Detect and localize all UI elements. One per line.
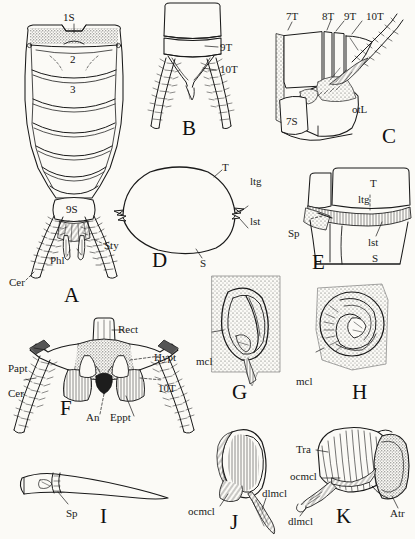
label-e-t: T — [370, 178, 377, 189]
label-c-8t: 8T — [322, 11, 334, 22]
label-f-rect: Rect — [118, 324, 138, 335]
label-j-dlmcl: dlmcl — [262, 488, 287, 499]
figure-letter-e: E — [312, 252, 325, 273]
label-e-sp: Sp — [288, 228, 300, 239]
label-a-phl: Phl — [50, 255, 65, 266]
label-c-7s: 7S — [286, 116, 298, 127]
figure-j-artwork — [217, 430, 275, 534]
label-a-9s: 9S — [66, 204, 78, 215]
label-c-7t: 7T — [286, 11, 298, 22]
label-f-papt: Papt — [8, 363, 28, 374]
label-a-cer: Cer — [9, 277, 25, 288]
label-d-ltg: ltg — [250, 176, 262, 187]
label-c-9t: 9T — [344, 11, 356, 22]
figure-letter-f: F — [60, 398, 72, 419]
label-g-mcl: mcl — [196, 356, 213, 367]
figure-letter-b: B — [182, 118, 196, 139]
figure-f-artwork — [14, 318, 194, 433]
figure-letter-g: G — [232, 382, 247, 403]
figure-letter-c: C — [382, 126, 396, 147]
label-e-ltg: ltg — [358, 194, 370, 205]
label-k-atr: Atr — [390, 508, 405, 519]
label-c-otl: otL — [352, 104, 367, 115]
label-b-10t: 10T — [220, 64, 238, 75]
label-a-3: 3 — [70, 84, 76, 95]
label-b-9t: 9T — [220, 42, 232, 53]
anatomy-plate: 1S 2 3 9S Sty Phl Cer A 9T 10T B 7T 8T 9… — [0, 0, 415, 539]
label-e-lst: lst — [368, 237, 378, 248]
label-d-lst: lst — [250, 216, 260, 227]
figure-letter-h: H — [352, 382, 367, 403]
figure-letter-d: D — [152, 250, 167, 271]
label-f-cer: Cer — [8, 388, 24, 399]
label-d-t: T — [222, 162, 229, 173]
figure-letter-i: I — [100, 506, 107, 527]
figure-i-artwork — [20, 473, 168, 504]
label-a-sty: Sty — [104, 240, 119, 251]
label-f-an: An — [86, 412, 99, 423]
figure-h-artwork — [316, 284, 388, 370]
figure-letter-a: A — [64, 285, 79, 306]
figure-g-artwork — [212, 276, 280, 386]
label-a-1s: 1S — [63, 12, 75, 23]
label-f-hypt: Hypt — [154, 352, 176, 363]
label-j-ocmcl: ocmcl — [188, 506, 215, 517]
label-k-dlmcl: dlmcl — [288, 516, 313, 527]
label-f-10t: 10T — [158, 383, 176, 394]
plate-artwork — [0, 0, 415, 539]
label-c-10t: 10T — [366, 11, 384, 22]
label-f-eppt: Eppt — [110, 412, 131, 423]
label-k-ocmcl: ocmcl — [290, 471, 317, 482]
figure-letter-k: K — [336, 506, 351, 527]
label-a-2: 2 — [70, 54, 76, 65]
label-d-s: S — [200, 258, 206, 269]
figure-d-artwork — [114, 167, 248, 258]
figure-letter-j: J — [230, 512, 238, 533]
label-h-mcl: mcl — [296, 376, 313, 387]
label-k-tra: Tra — [296, 444, 311, 455]
label-e-s: S — [372, 253, 378, 264]
label-i-sp: Sp — [66, 508, 78, 519]
